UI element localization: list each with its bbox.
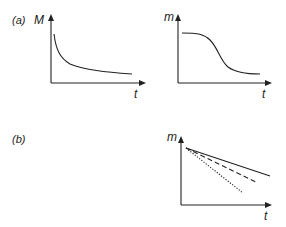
dotted-line — [186, 148, 243, 193]
y-axis-arrow-icon — [175, 14, 181, 21]
x-axis-arrow-icon — [265, 80, 272, 86]
plot-a-right: m t — [164, 10, 272, 101]
plot-b: m t — [167, 130, 272, 223]
panel-a-label: (a) — [12, 14, 26, 26]
panel-b-label: (b) — [12, 133, 26, 145]
x-axis-arrow-icon — [139, 80, 146, 86]
x-axis-label-t: t — [262, 87, 266, 101]
sigmoid-curve — [182, 33, 260, 74]
x-axis-label-t: t — [264, 209, 268, 223]
decay-curve — [54, 34, 132, 74]
x-axis-label-t: t — [134, 87, 138, 101]
y-axis-label-m: m — [167, 130, 177, 144]
y-axis-arrow-icon — [178, 136, 184, 143]
y-axis-label-M: M — [34, 13, 44, 27]
y-axis-arrow-icon — [48, 14, 54, 21]
solid-line — [186, 148, 270, 176]
y-axis-label-m: m — [164, 10, 174, 24]
figure: (a) M t m t (b) m t — [0, 0, 286, 227]
x-axis-arrow-icon — [265, 202, 272, 208]
plot-a-left: M t — [34, 13, 146, 101]
dashed-line — [186, 148, 258, 183]
